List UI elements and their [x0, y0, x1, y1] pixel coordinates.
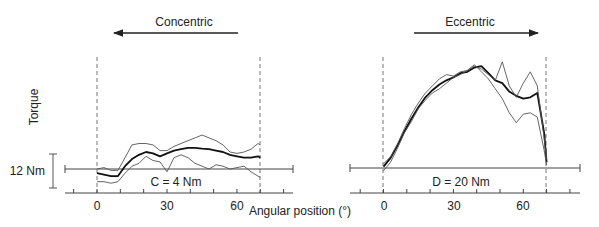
tick-30: 30 — [160, 199, 174, 213]
scale-bar: 12 Nm — [10, 154, 57, 188]
torque-curve-mean — [97, 148, 260, 176]
torque-curve-upper — [97, 135, 260, 170]
figure-canvas: Torque 12 Nm Concentric C = 4 Nm 0 30 60… — [0, 0, 599, 227]
x-axis-label: Angular position (°) — [249, 204, 351, 218]
concentric-label: Concentric — [155, 15, 212, 29]
torque-curve-upper — [384, 62, 547, 164]
panel-concentric: Concentric C = 4 Nm 0 30 60 — [65, 15, 293, 213]
panel-eccentric: Eccentric D = 20 Nm 0 30 60 — [350, 15, 580, 213]
x-axis: 0 30 60 — [350, 189, 580, 213]
torque-curve-lower — [384, 65, 547, 171]
y-axis-label: Torque — [27, 88, 41, 125]
torque-curve-mean — [384, 66, 547, 167]
baseline-annotation: C = 4 Nm — [150, 175, 201, 189]
baseline-annotation: D = 20 Nm — [432, 175, 490, 189]
tick-60: 60 — [516, 199, 530, 213]
tick-0: 0 — [94, 199, 101, 213]
tick-30: 30 — [447, 199, 461, 213]
eccentric-torque-curves — [384, 62, 547, 171]
scale-bar-label: 12 Nm — [10, 164, 45, 178]
tick-60: 60 — [230, 199, 244, 213]
eccentric-label: Eccentric — [445, 15, 494, 29]
tick-0: 0 — [381, 199, 388, 213]
